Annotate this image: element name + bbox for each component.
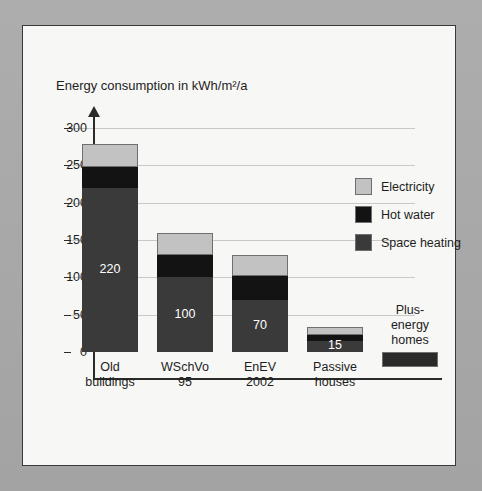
legend-swatch (355, 234, 372, 251)
legend-swatch (355, 206, 372, 223)
x-tick-label-passive-houses: Passivehouses (293, 360, 377, 390)
chart-panel: Energy consumption in kWh/m²/a 300250200… (22, 25, 456, 466)
y-tick-mark (64, 203, 71, 204)
category-label-line: Old (68, 360, 152, 375)
bar-old-buildings[interactable]: 220 (82, 26, 138, 412)
y-tick-mark (64, 352, 71, 353)
bar-value-label: 100 (157, 307, 213, 321)
bar-value-label: 70 (232, 318, 288, 332)
category-label-line: Passive (293, 360, 377, 375)
y-tick-mark (64, 240, 71, 241)
y-axis-labels: 300250200150100500 (47, 26, 87, 491)
x-tick-label-old-buildings: Oldbuildings (68, 360, 152, 390)
bar-value-label: 220 (82, 262, 138, 276)
legend-item-hot-water[interactable]: Hot water (355, 206, 461, 223)
chart-legend: ElectricityHot waterSpace heating (355, 178, 461, 262)
bar-segment-space-heating (382, 352, 438, 367)
y-tick-mark (64, 277, 71, 278)
category-label-line: 2002 (218, 375, 302, 390)
x-tick-label-enev-2002: EnEV2002 (218, 360, 302, 390)
bar-segment-hot-water (157, 255, 213, 277)
image-frame: Energy consumption in kWh/m²/a 300250200… (0, 0, 482, 491)
category-label-line: WSchVo (143, 360, 227, 375)
y-tick-mark (64, 165, 71, 166)
x-tick-label-plus-energy-homes: Plus-energyhomes (368, 303, 452, 348)
y-tick-mark (64, 315, 71, 316)
legend-item-electricity[interactable]: Electricity (355, 178, 461, 195)
bar-segment-electricity (307, 327, 363, 334)
y-tick-mark (64, 128, 71, 129)
category-label-line: EnEV (218, 360, 302, 375)
legend-swatch (355, 178, 372, 195)
bar-wschvo-95[interactable]: 100 (157, 26, 213, 412)
bar-segment-electricity (232, 255, 288, 276)
legend-label: Electricity (381, 180, 434, 194)
category-label-line: Plus- (368, 303, 452, 318)
bar-segment-hot-water (232, 276, 288, 300)
bar-segment-hot-water (82, 167, 138, 188)
legend-label: Hot water (381, 208, 435, 222)
bar-enev-2002[interactable]: 70 (232, 26, 288, 412)
legend-label: Space heating (381, 236, 461, 250)
category-label-line: energy (368, 318, 452, 333)
x-tick-label-wschvo-95: WSchVo95 (143, 360, 227, 390)
category-label-line: homes (368, 333, 452, 348)
category-label-line: houses (293, 375, 377, 390)
category-label-line: buildings (68, 375, 152, 390)
legend-item-space-heating[interactable]: Space heating (355, 234, 461, 251)
bar-value-label: 15 (307, 338, 363, 352)
bar-segment-electricity (82, 144, 138, 166)
category-label-line: 95 (143, 375, 227, 390)
bar-segment-electricity (157, 233, 213, 255)
